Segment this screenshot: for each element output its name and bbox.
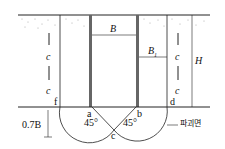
label-failure-surface: 파괴면: [180, 120, 201, 128]
label-c-left-1: c: [46, 52, 50, 62]
left-wall: [89, 15, 92, 107]
label-c-right-2: c: [175, 86, 179, 96]
angle-left: 45°: [84, 118, 98, 128]
label-c-right-1: c: [175, 52, 179, 62]
label-f: f: [54, 97, 57, 107]
label-c-point: c: [111, 131, 115, 141]
label-d: d: [170, 97, 175, 107]
cohesion-arrows: [49, 33, 178, 80]
label-B: B: [110, 24, 116, 34]
right-wall: [136, 15, 139, 107]
angle-right: 45°: [123, 118, 137, 128]
diagram-canvas: B B1 H c c c c f d a b c 45° 45° 0.7B 파괴…: [0, 0, 225, 149]
label-B1: B1: [148, 46, 157, 58]
label-07B: 0.7B: [22, 120, 41, 130]
label-H: H: [195, 56, 202, 66]
label-c-left-2: c: [46, 86, 50, 96]
label-b: b: [137, 109, 142, 119]
